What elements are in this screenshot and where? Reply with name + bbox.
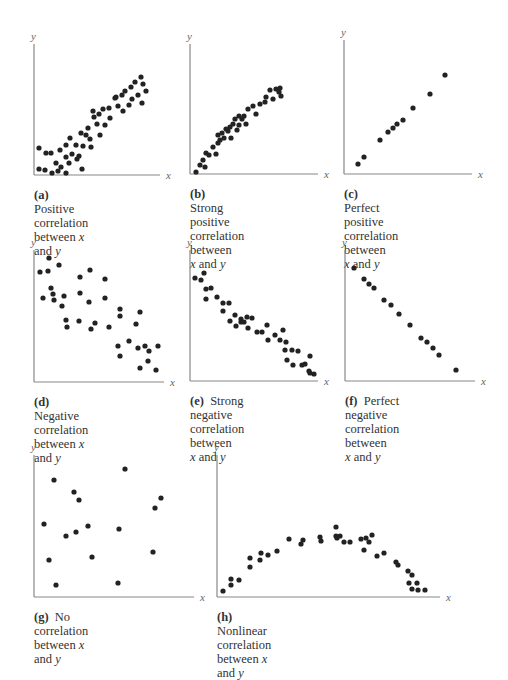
data-point xyxy=(395,562,400,567)
data-point xyxy=(228,582,233,587)
caption-letter: (h) xyxy=(217,610,232,624)
data-point xyxy=(337,533,342,538)
data-point xyxy=(317,534,322,539)
data-point xyxy=(347,539,352,544)
data-point xyxy=(369,532,374,537)
data-point xyxy=(228,576,233,581)
data-point xyxy=(409,572,414,577)
data-point xyxy=(274,548,279,553)
y-axis-label: y xyxy=(214,441,219,453)
data-point xyxy=(363,535,368,540)
data-point xyxy=(220,588,225,593)
data-point xyxy=(415,587,420,592)
x-axis-label: x xyxy=(446,591,451,603)
data-point xyxy=(341,539,346,544)
data-point xyxy=(333,524,338,529)
data-point xyxy=(358,536,363,541)
data-point xyxy=(265,552,270,557)
data-point xyxy=(406,580,411,585)
data-point xyxy=(247,555,252,560)
data-point xyxy=(247,564,252,569)
data-point xyxy=(361,547,366,552)
data-point xyxy=(422,587,427,592)
data-point xyxy=(414,580,419,585)
data-point xyxy=(298,541,303,546)
data-point xyxy=(374,553,379,558)
data-point xyxy=(286,536,291,541)
data-point xyxy=(405,568,410,573)
data-point xyxy=(381,550,386,555)
data-point xyxy=(257,557,262,562)
data-point xyxy=(258,550,263,555)
caption-h: (h) Nonlinear correlationbetween x and y xyxy=(217,610,271,680)
data-point xyxy=(409,586,414,591)
data-point xyxy=(236,577,241,582)
